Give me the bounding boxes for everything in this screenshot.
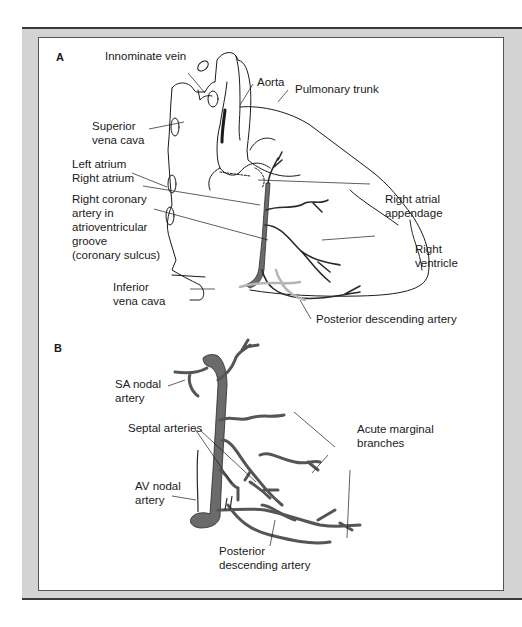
posterior-descending-artery-a — [240, 270, 305, 300]
label-av-nodal-line1: AV nodal — [135, 480, 181, 493]
label-posterior-descending-artery-a: Posterior descending artery — [316, 313, 457, 326]
label-right-ventricle-line2: ventricle — [415, 257, 458, 270]
label-aorta: Aorta — [257, 76, 285, 89]
label-sa-nodal-line2: artery — [115, 392, 144, 405]
right-coronary-artery — [245, 183, 270, 288]
label-superior-vena-cava-line1: Superior — [92, 120, 135, 133]
label-septal-arteries: Septal arteries — [128, 422, 202, 435]
label-sa-nodal-line1: SA nodal — [115, 378, 161, 391]
label-innominate-vein: Innominate vein — [105, 50, 186, 63]
aorta-outline — [236, 56, 240, 140]
label-rca-line5: (coronary sulcus) — [72, 249, 160, 262]
panel-b-letter: B — [54, 342, 62, 354]
label-right-atrial-appendage-line1: Right atrial — [385, 193, 440, 206]
label-inferior-vena-cava-line1: Inferior — [113, 281, 149, 294]
label-right-atrial-appendage-line2: appendage — [385, 207, 443, 220]
label-pulmonary-trunk: Pulmonary trunk — [295, 83, 379, 96]
label-acute-marginal-line2: branches — [357, 437, 404, 450]
label-right-atrium: Right atrium — [72, 172, 134, 185]
label-pda-b-line2: descending artery — [219, 559, 310, 572]
superior-vena-cava-outline — [172, 53, 300, 177]
label-rca-line4: groove — [72, 235, 107, 248]
label-av-nodal-line2: artery — [135, 494, 164, 507]
label-superior-vena-cava-line2: vena cava — [92, 134, 144, 147]
panel-a-letter: A — [56, 51, 64, 63]
label-right-ventricle-line1: Right — [415, 243, 442, 256]
av-nodal-artery — [197, 450, 198, 512]
label-rca-line1: Right coronary — [72, 193, 147, 206]
label-rca-line3: atrioventricular — [72, 221, 147, 234]
label-inferior-vena-cava-line2: vena cava — [113, 295, 165, 308]
label-acute-marginal-line1: Acute marginal — [357, 423, 434, 436]
label-pda-b-line1: Posterior — [219, 545, 265, 558]
label-rca-line2: artery in — [72, 207, 114, 220]
label-left-atrium: Left atrium — [72, 158, 126, 171]
